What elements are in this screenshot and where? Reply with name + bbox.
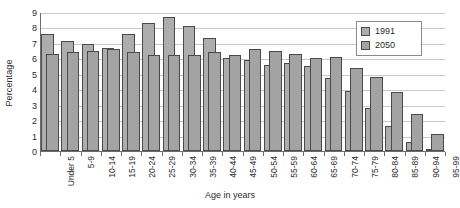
y-tick-label: 7 — [3, 40, 37, 49]
x-tick-label: 20-24 — [147, 156, 157, 188]
bar-group — [203, 13, 223, 151]
bar-2050 — [249, 49, 262, 151]
bar-group — [325, 13, 345, 151]
legend-swatch-1991 — [361, 27, 370, 36]
bar-group — [223, 13, 243, 151]
bar-group — [163, 13, 183, 151]
x-tick-mark — [425, 152, 426, 156]
bar-2050 — [148, 55, 161, 151]
bar-group — [61, 13, 81, 151]
x-tick-label: 10-14 — [107, 156, 117, 188]
bar-2050 — [391, 92, 404, 151]
x-tick-mark — [364, 152, 365, 156]
x-tick-label: 85-89 — [410, 156, 420, 188]
bar-2050 — [208, 52, 221, 151]
bar-2050 — [431, 134, 444, 151]
x-tick-label: 55-59 — [289, 156, 299, 188]
bar-2050 — [127, 52, 140, 151]
legend-label-2050: 2050 — [375, 41, 395, 50]
x-tick-mark — [303, 152, 304, 156]
y-tick-label: 8 — [3, 24, 37, 33]
y-tick-label: 0 — [3, 148, 37, 157]
x-tick-label: 70-74 — [350, 156, 360, 188]
x-tick-mark — [81, 152, 82, 156]
bar-2050 — [350, 68, 363, 151]
chart-screenshot: Percentage 0123456789 Under 55-910-1415-… — [0, 0, 460, 208]
x-tick-mark — [141, 152, 142, 156]
bar-group — [426, 13, 446, 151]
legend-item-2050: 2050 — [361, 39, 417, 52]
x-tick-mark — [445, 152, 446, 156]
bar-group — [304, 13, 324, 151]
x-tick-mark — [324, 152, 325, 156]
bar-group — [122, 13, 142, 151]
x-tick-mark — [405, 152, 406, 156]
x-tick-label: 75-79 — [370, 156, 380, 188]
bar-2050 — [67, 52, 80, 151]
bar-2050 — [46, 54, 59, 151]
bar-2050 — [107, 49, 120, 151]
x-tick-mark — [202, 152, 203, 156]
bar-group — [284, 13, 304, 151]
x-tick-mark — [101, 152, 102, 156]
x-tick-mark — [344, 152, 345, 156]
bar-2050 — [370, 77, 383, 151]
bar-2050 — [168, 55, 181, 151]
y-tick-label: 9 — [3, 9, 37, 18]
bar-2050 — [330, 57, 343, 151]
y-axis-tick-labels: 0123456789 — [0, 13, 37, 152]
x-tick-label: 40-44 — [228, 156, 238, 188]
y-tick-label: 5 — [3, 71, 37, 80]
bar-2050 — [269, 51, 282, 151]
x-tick-mark — [162, 152, 163, 156]
x-tick-mark — [384, 152, 385, 156]
x-tick-label: 5-9 — [86, 156, 96, 188]
x-axis-tick-labels: Under 55-910-1415-1920-2425-2930-3435-39… — [40, 157, 445, 189]
x-tick-label: 95-99 — [451, 156, 460, 188]
x-tick-mark — [222, 152, 223, 156]
bar-2050 — [229, 55, 242, 151]
bar-group — [183, 13, 203, 151]
legend-label-1991: 1991 — [375, 27, 395, 36]
x-tick-mark — [40, 152, 41, 156]
bar-group — [244, 13, 264, 151]
bar-group — [41, 13, 61, 151]
x-tick-mark — [263, 152, 264, 156]
x-tick-mark — [121, 152, 122, 156]
x-tick-mark — [243, 152, 244, 156]
x-tick-label: 35-39 — [208, 156, 218, 188]
x-tick-label: 50-54 — [269, 156, 279, 188]
bar-group — [102, 13, 122, 151]
y-tick-label: 3 — [3, 102, 37, 111]
y-tick-label: 2 — [3, 117, 37, 126]
x-tick-label: 65-69 — [329, 156, 339, 188]
chart-legend: 1991 2050 — [356, 21, 422, 56]
bar-group — [264, 13, 284, 151]
y-tick-label: 6 — [3, 55, 37, 64]
x-tick-mark — [182, 152, 183, 156]
x-tick-label: 30-34 — [188, 156, 198, 188]
x-tick-label: 25-29 — [167, 156, 177, 188]
y-tick-label: 4 — [3, 86, 37, 95]
x-tick-label: 45-49 — [248, 156, 258, 188]
bar-2050 — [289, 54, 302, 151]
x-tick-label: 90-94 — [431, 156, 441, 188]
x-tick-label: 15-19 — [127, 156, 137, 188]
x-tick-mark — [283, 152, 284, 156]
x-tick-label: 60-64 — [309, 156, 319, 188]
bar-2050 — [310, 58, 323, 151]
legend-item-1991: 1991 — [361, 25, 417, 38]
bar-2050 — [188, 55, 201, 151]
bar-2050 — [411, 114, 424, 151]
x-tick-label: 80-84 — [390, 156, 400, 188]
legend-swatch-2050 — [361, 41, 370, 50]
bar-group — [142, 13, 162, 151]
x-axis-title: Age in years — [0, 190, 460, 200]
y-tick-label: 1 — [3, 133, 37, 142]
bar-2050 — [87, 51, 100, 151]
x-tick-mark — [60, 152, 61, 156]
bar-group — [82, 13, 102, 151]
x-tick-label: Under 5 — [66, 156, 76, 188]
